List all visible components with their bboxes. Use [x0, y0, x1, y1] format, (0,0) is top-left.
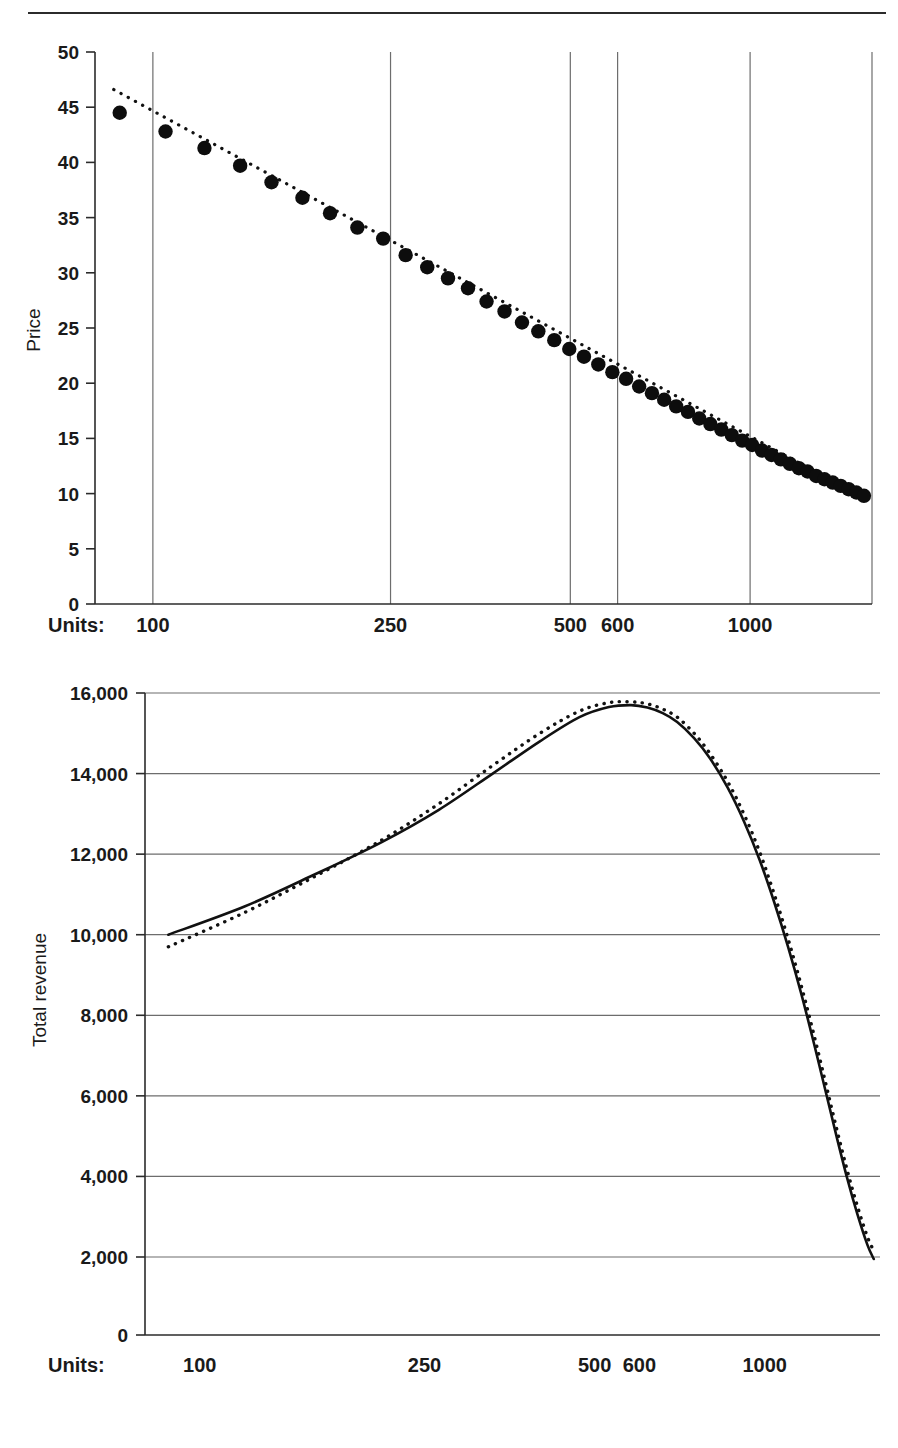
- revenue-x-tick-label-250: 250: [408, 1354, 441, 1376]
- revenue-y-tick-label-4,000: 4,000: [80, 1166, 128, 1187]
- price-y-tick-label-25: 25: [58, 318, 80, 339]
- price-y-tick-label-45: 45: [58, 97, 80, 118]
- price-point: [531, 324, 545, 338]
- revenue-y-tick-label-8,000: 8,000: [80, 1005, 128, 1026]
- price-y-tick-label-35: 35: [58, 208, 80, 229]
- price-point: [158, 124, 172, 138]
- revenue-x-tick-label-100: 100: [183, 1354, 216, 1376]
- price-point: [857, 489, 871, 503]
- price-point: [420, 260, 434, 274]
- price-x-tick-label-1000: 1000: [728, 614, 773, 636]
- revenue-y-axis-title: Total revenue: [29, 933, 50, 1047]
- price-point: [197, 141, 211, 155]
- total-revenue-chart-figure: 02,0004,0006,0008,00010,00012,00014,0001…: [0, 660, 898, 1448]
- price-point: [479, 294, 493, 308]
- price-y-tick-label-10: 10: [58, 484, 79, 505]
- revenue-y-tick-label-0: 0: [117, 1325, 128, 1346]
- revenue-y-tick-label-16,000: 16,000: [70, 683, 128, 704]
- price-y-axis-title: Price: [23, 308, 44, 351]
- revenue-y-tick-label-12,000: 12,000: [70, 844, 128, 865]
- price-y-tick-label-0: 0: [68, 594, 79, 615]
- price-point: [591, 357, 605, 371]
- price-trend-line: [114, 90, 866, 500]
- price-x-tick-label-100: 100: [136, 614, 169, 636]
- revenue-y-tick-label-6,000: 6,000: [80, 1086, 128, 1107]
- price-point: [645, 386, 659, 400]
- price-x-axis-title: Units:: [48, 614, 105, 636]
- price-y-tick-label-50: 50: [58, 42, 79, 63]
- price-point: [113, 106, 127, 120]
- price-point: [295, 191, 309, 205]
- revenue-x-tick-labels: 1002505006001000: [183, 1354, 787, 1376]
- price-point: [619, 372, 633, 386]
- price-y-tick-label-40: 40: [58, 152, 79, 173]
- price-y-tick-label-30: 30: [58, 263, 79, 284]
- revenue-y-tick-label-14,000: 14,000: [70, 764, 128, 785]
- price-y-tick-labels: 05101520253035404550: [58, 42, 80, 615]
- price-x-tick-label-600: 600: [601, 614, 634, 636]
- price-y-tick-label-15: 15: [58, 428, 80, 449]
- price-point: [547, 333, 561, 347]
- price-y-tick-label-20: 20: [58, 373, 79, 394]
- price-point: [323, 206, 337, 220]
- revenue-x-tick-label-500: 500: [578, 1354, 611, 1376]
- revenue-y-tick-label-10,000: 10,000: [70, 925, 128, 946]
- revenue-y-tick-label-2,000: 2,000: [80, 1247, 128, 1268]
- price-x-tick-label-250: 250: [374, 614, 407, 636]
- revenue-x-tick-label-600: 600: [623, 1354, 656, 1376]
- price-point: [350, 220, 364, 234]
- price-point: [398, 248, 412, 262]
- price-x-tick-labels: 1002505006001000: [136, 614, 772, 636]
- revenue-x-tick-label-1000: 1000: [742, 1354, 787, 1376]
- price-point: [562, 342, 576, 356]
- price-data-markers: [113, 106, 872, 503]
- price-point: [461, 281, 475, 295]
- revenue-y-axis-ticks: [136, 693, 145, 1335]
- price-point: [376, 231, 390, 245]
- price-point: [497, 304, 511, 318]
- price-chart-figure: 05101520253035404550 Price Units: 100250…: [0, 0, 898, 650]
- price-point: [515, 315, 529, 329]
- price-point: [577, 350, 591, 364]
- price-chart-svg: 05101520253035404550 Price Units: 100250…: [0, 0, 898, 650]
- price-y-tick-label-5: 5: [68, 539, 79, 560]
- price-point: [605, 365, 619, 379]
- total-revenue-chart-svg: 02,0004,0006,0008,00010,00012,00014,0001…: [0, 660, 898, 1448]
- revenue-observed-line: [168, 702, 873, 1251]
- price-point: [264, 175, 278, 189]
- revenue-gridlines: [145, 693, 880, 1257]
- revenue-y-tick-labels: 02,0004,0006,0008,00010,00012,00014,0001…: [70, 683, 128, 1346]
- price-point: [441, 271, 455, 285]
- revenue-x-axis-title: Units:: [48, 1354, 105, 1376]
- price-point: [233, 159, 247, 173]
- price-x-tick-label-500: 500: [554, 614, 587, 636]
- price-gridlines: [153, 52, 872, 604]
- price-y-axis-ticks: [86, 52, 95, 604]
- price-point: [632, 379, 646, 393]
